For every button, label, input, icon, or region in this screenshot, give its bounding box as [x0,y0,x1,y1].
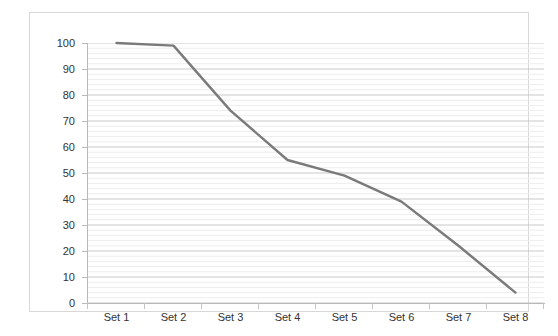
x-axis-tick [315,303,316,309]
x-axis-tick-label: Set 5 [332,312,358,323]
y-axis-tick-label: 80 [63,90,75,101]
x-axis-tick [144,303,145,309]
x-axis-tick [87,303,88,309]
x-axis-tick [543,303,544,309]
x-axis-tick-label: Set 8 [503,312,529,323]
y-axis-tick [82,251,88,252]
x-axis-line [87,303,545,304]
y-axis-tick [82,225,88,226]
y-axis-tick-label: 60 [63,142,75,153]
x-axis-tick-label: Set 2 [161,312,187,323]
y-axis-tick [82,277,88,278]
x-axis-tick-label: Set 7 [446,312,472,323]
y-axis-tick-label: 50 [63,168,75,179]
x-axis-tick-label: Set 3 [218,312,244,323]
y-axis-tick-label: 40 [63,194,75,205]
y-axis-tick-label: 100 [57,38,75,49]
x-axis-tick-label: Set 6 [389,312,415,323]
y-axis-tick-label: 30 [63,220,75,231]
y-axis-tick-label: 10 [63,272,75,283]
x-axis-tick [372,303,373,309]
x-axis-tick [486,303,487,309]
y-axis-tick [82,199,88,200]
y-axis-tick [82,147,88,148]
x-axis-tick [201,303,202,309]
y-axis-tick-label: 0 [69,298,75,309]
y-axis-tick [82,95,88,96]
x-axis-tick-label: Set 4 [275,312,301,323]
y-axis-tick [82,173,88,174]
y-axis-tick-label: 70 [63,116,75,127]
plot-area [88,43,544,303]
y-axis-tick [82,69,88,70]
y-axis-tick [82,121,88,122]
chart-figure: 0102030405060708090100 Set 1Set 2Set 3Se… [29,12,529,312]
y-axis-tick-label: 90 [63,64,75,75]
data-polyline [117,43,516,293]
y-axis-tick [82,43,88,44]
data-line-series [88,43,544,303]
x-axis-tick-label: Set 1 [104,312,130,323]
y-axis-tick-label: 20 [63,246,75,257]
x-axis-tick [258,303,259,309]
x-axis-tick [429,303,430,309]
